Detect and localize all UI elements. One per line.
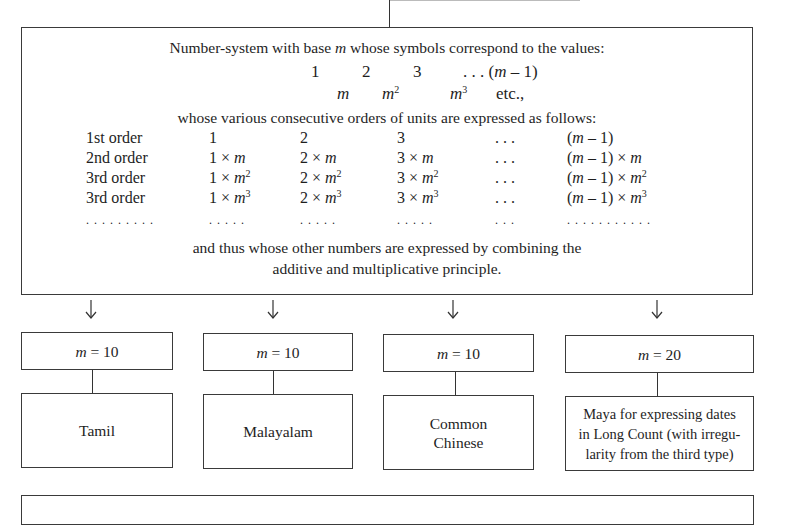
closing-line-2: additive and multiplicative principle.	[22, 260, 752, 278]
order-cell: . . . . . . . . . . .	[567, 213, 651, 228]
base-variable: m	[437, 345, 448, 362]
order-cell: (m – 1) × m3	[567, 189, 647, 207]
connector	[455, 372, 456, 395]
order-cell: . . .	[495, 213, 515, 228]
base-box-malayalam: m = 10	[203, 333, 353, 371]
order-cell: . . .	[495, 129, 515, 147]
order-cell: 3	[397, 129, 405, 147]
order-cell: 1	[209, 129, 217, 147]
symbol-value-m-minus-1: . . . (m – 1)	[463, 63, 538, 81]
system-name-line-2: in Long Count (with irregu-	[579, 426, 741, 442]
arrow-down-icon	[446, 300, 460, 320]
power-m: m	[337, 85, 349, 103]
arrow-down-icon	[266, 300, 280, 320]
base-value: = 10	[268, 344, 300, 361]
order-cell: 2	[300, 129, 308, 147]
order-cell: (m – 1)	[567, 129, 613, 147]
order-cell: 1 × m3	[209, 189, 251, 207]
order-cell: . . . . .	[300, 213, 336, 228]
order-cell: 1 × m2	[209, 169, 251, 187]
base-value: = 10	[87, 343, 119, 360]
symbol-value-2: 2	[362, 63, 371, 81]
order-cell: 3 × m	[397, 149, 434, 167]
system-name-line-2: Chinese	[434, 434, 484, 451]
closing-line-1: and thus whose other numbers are express…	[22, 239, 752, 257]
base-box-tamil: m = 10	[21, 332, 173, 370]
system-name-line-1: Common	[430, 415, 488, 432]
connector	[273, 371, 274, 394]
order-label: . . . . . . . . .	[86, 213, 154, 228]
system-name: Malayalam	[243, 422, 313, 441]
base-variable: m	[638, 346, 649, 363]
next-box-partial	[21, 495, 754, 525]
system-name-line-3: larity from the third type)	[585, 446, 733, 462]
table-row: 3rd order 1 × m2 2 × m2 3 × m2 . . . (m …	[22, 169, 752, 187]
order-label: 3rd order	[86, 169, 145, 187]
arrow-down-icon	[650, 300, 664, 320]
power-m-cubed: m3	[450, 85, 467, 103]
base-value: = 10	[448, 345, 480, 362]
base-variable: m	[75, 343, 86, 360]
system-box-maya: Maya for expressing datesin Long Count (…	[565, 396, 754, 471]
system-name: Tamil	[79, 421, 115, 440]
base-value: = 20	[649, 346, 681, 363]
order-cell: 2 × m	[300, 149, 337, 167]
definition-heading: Number-system with base m whose symbols …	[22, 39, 752, 57]
order-cell: . . .	[495, 169, 515, 187]
number-system-definition-box: Number-system with base m whose symbols …	[21, 27, 753, 295]
order-cell: . . .	[495, 149, 515, 167]
symbol-value-1: 1	[311, 63, 320, 81]
power-m-squared: m2	[382, 85, 399, 103]
system-box-tamil: Tamil	[21, 393, 173, 468]
base-box-maya: m = 20	[565, 335, 754, 373]
order-cell: 1 × m	[209, 149, 246, 167]
order-cell: 2 × m3	[300, 189, 342, 207]
symbol-value-3: 3	[413, 63, 422, 81]
previous-box-bottom-edge	[390, 0, 580, 1]
connector	[92, 370, 93, 393]
system-box-malayalam: Malayalam	[203, 394, 353, 469]
heading-variable: m	[335, 39, 346, 56]
table-row: 2nd order 1 × m 2 × m 3 × m . . . (m – 1…	[22, 149, 752, 167]
table-row: 3rd order 1 × m3 2 × m3 3 × m3 . . . (m …	[22, 189, 752, 207]
incoming-connector	[389, 0, 390, 28]
table-row-ellipsis: . . . . . . . . . . . . . . . . . . . . …	[22, 213, 752, 231]
order-cell: . . .	[495, 189, 515, 207]
order-cell: 2 × m2	[300, 169, 342, 187]
arrow-down-icon	[84, 300, 98, 320]
order-cell: . . . . .	[397, 213, 433, 228]
connector	[657, 373, 658, 396]
system-box-common-chinese: CommonChinese	[383, 395, 534, 470]
orders-table: 1st order 1 2 3 . . . (m – 1) 2nd order …	[22, 129, 752, 239]
system-name-line-1: Maya for expressing dates	[583, 406, 736, 422]
order-cell: (m – 1) × m2	[567, 169, 647, 187]
order-cell: . . . . .	[209, 213, 245, 228]
base-variable: m	[256, 344, 267, 361]
order-label: 3rd order	[86, 189, 145, 207]
base-box-common-chinese: m = 10	[383, 334, 534, 372]
order-label: 1st order	[86, 129, 142, 147]
table-row: 1st order 1 2 3 . . . (m – 1)	[22, 129, 752, 147]
order-cell: 3 × m3	[397, 189, 439, 207]
orders-intro: whose various consecutive orders of unit…	[22, 109, 752, 127]
order-cell: 3 × m2	[397, 169, 439, 187]
heading-text-post: whose symbols correspond to the values:	[346, 39, 604, 56]
order-cell: (m – 1) × m	[567, 149, 642, 167]
power-etc: etc.,	[496, 85, 524, 103]
heading-text-pre: Number-system with base	[170, 39, 335, 56]
order-label: 2nd order	[86, 149, 148, 167]
